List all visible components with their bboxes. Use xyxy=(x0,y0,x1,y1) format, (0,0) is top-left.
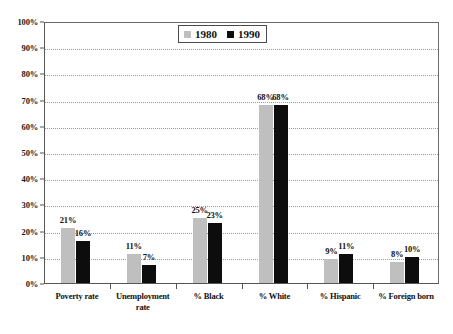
x-axis-tick-mark xyxy=(176,284,177,289)
y-axis-tick-label: 100% xyxy=(0,17,38,27)
y-axis-tick-mark xyxy=(40,126,44,127)
chart-legend: 19801990 xyxy=(178,25,267,43)
x-axis-tick-label-line: % Hispanic xyxy=(307,291,373,302)
bar-group: 8%10% xyxy=(374,23,440,283)
bar-value-label: 68% xyxy=(268,92,294,102)
bar-value-label: 11% xyxy=(333,241,359,251)
x-axis: Poverty rateUnemploymentrate% Black% Whi… xyxy=(44,291,439,331)
x-axis-tick-label: % White xyxy=(242,291,308,302)
x-axis-tick-mark xyxy=(307,284,308,289)
bar-group: 11%7% xyxy=(111,23,177,283)
y-axis-tick-label: 90% xyxy=(0,43,38,53)
x-axis-tick-mark xyxy=(242,284,243,289)
x-axis-tick-label-line: % Foreign born xyxy=(373,291,439,302)
bar-1990 xyxy=(76,241,90,283)
y-axis-tick-mark xyxy=(40,284,44,285)
bar-group: 68%68% xyxy=(243,23,309,283)
y-axis-tick-label: 30% xyxy=(0,200,38,210)
y-axis-tick-mark xyxy=(40,22,44,23)
bar-group: 9%11% xyxy=(308,23,374,283)
bar-value-label: 11% xyxy=(121,241,147,251)
bar-1990 xyxy=(208,223,222,283)
bar-1990 xyxy=(274,105,288,283)
bar-value-label: 7% xyxy=(136,252,162,262)
legend-label: 1990 xyxy=(238,28,260,40)
bar-chart: 0%10%20%30%40%50%60%70%80%90%100% 21%16%… xyxy=(0,0,453,334)
bar-1980 xyxy=(259,105,273,283)
x-axis-tick-label-line: rate xyxy=(110,302,176,313)
bar-1990 xyxy=(339,254,353,283)
y-axis-tick-label: 10% xyxy=(0,253,38,263)
legend-swatch-icon xyxy=(184,31,191,38)
y-axis-tick-label: 40% xyxy=(0,174,38,184)
y-axis-tick-mark xyxy=(40,48,44,49)
y-axis-tick-label: 70% xyxy=(0,96,38,106)
y-axis-tick-mark xyxy=(40,74,44,75)
x-axis-ticks xyxy=(44,284,439,290)
bar-1980 xyxy=(390,262,404,283)
x-axis-tick-mark xyxy=(110,284,111,289)
x-axis-tick-label: Unemploymentrate xyxy=(110,291,176,313)
bar-1990 xyxy=(142,265,156,283)
x-axis-tick-label: % Foreign born xyxy=(373,291,439,302)
y-axis: 0%10%20%30%40%50%60%70%80%90%100% xyxy=(0,22,40,284)
x-axis-tick-label-line: % Black xyxy=(176,291,242,302)
bar-1980 xyxy=(324,259,338,283)
legend-entry: 1980 xyxy=(184,28,217,40)
bar-value-label: 10% xyxy=(399,244,425,254)
y-axis-tick-label: 80% xyxy=(0,69,38,79)
y-axis-tick-mark xyxy=(40,179,44,180)
y-axis-tick-mark xyxy=(40,231,44,232)
bar-group: 21%16% xyxy=(45,23,111,283)
y-axis-tick-label: 50% xyxy=(0,148,38,158)
x-axis-tick-label: % Black xyxy=(176,291,242,302)
bar-group: 25%23% xyxy=(177,23,243,283)
bar-1980 xyxy=(193,218,207,284)
y-axis-tick-label: 0% xyxy=(0,279,38,289)
bar-value-label: 23% xyxy=(202,210,228,220)
x-axis-tick-label: % Hispanic xyxy=(307,291,373,302)
bar-value-label: 16% xyxy=(70,228,96,238)
x-axis-tick-mark xyxy=(373,284,374,289)
y-axis-tick-mark xyxy=(40,100,44,101)
legend-label: 1980 xyxy=(195,28,217,40)
bar-1990 xyxy=(405,257,419,283)
legend-entry: 1990 xyxy=(227,28,260,40)
y-axis-tick-label: 60% xyxy=(0,122,38,132)
y-axis-tick-mark xyxy=(40,205,44,206)
y-axis-tick-mark xyxy=(40,257,44,258)
x-axis-tick-label-line: Poverty rate xyxy=(44,291,110,302)
y-axis-tick-label: 20% xyxy=(0,227,38,237)
legend-swatch-icon xyxy=(227,31,234,38)
x-axis-tick-label: Poverty rate xyxy=(44,291,110,302)
y-axis-tick-mark xyxy=(40,153,44,154)
bars-layer: 21%16%11%7%25%23%68%68%9%11%8%10% xyxy=(45,23,438,283)
x-axis-tick-label-line: % White xyxy=(242,291,308,302)
x-axis-tick-label-line: Unemployment xyxy=(110,291,176,302)
plot-area: 21%16%11%7%25%23%68%68%9%11%8%10% xyxy=(44,22,439,284)
bar-value-label: 21% xyxy=(55,215,81,225)
